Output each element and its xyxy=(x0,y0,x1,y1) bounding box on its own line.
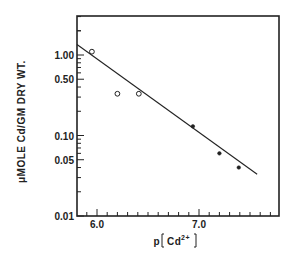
x-tick-label: 6.0 xyxy=(90,219,104,230)
filled-circle-marker xyxy=(237,166,241,170)
y-tick-label: 0.01 xyxy=(55,211,75,222)
filled-circle-marker xyxy=(218,152,222,156)
open-circle-marker xyxy=(115,91,120,96)
x-label-prefix: p xyxy=(153,236,160,247)
right-bracket-icon xyxy=(194,234,196,247)
open-circle-marker xyxy=(136,91,141,96)
filled-circle-marker xyxy=(191,125,195,129)
chart: 0.010.050.100.501.00 6.07.0 pCd2+ xyxy=(0,0,292,270)
y-tick-label: 0.50 xyxy=(55,74,75,85)
x-label-species: Cd xyxy=(167,236,181,247)
regression-line xyxy=(77,45,257,175)
data-points xyxy=(90,49,241,169)
plot-border xyxy=(77,16,279,216)
x-label-charge: 2+ xyxy=(181,234,190,241)
x-tick-label: 7.0 xyxy=(192,219,206,230)
y-tick-label: 1.00 xyxy=(55,50,75,61)
y-axis-label-text: μMOLE Cd/GM DRY WT. xyxy=(16,60,27,183)
x-axis-label: pCd2+ xyxy=(153,234,196,247)
open-circle-marker xyxy=(90,49,95,54)
y-tick-label: 0.05 xyxy=(55,155,75,166)
plot-frame xyxy=(77,16,279,216)
left-bracket-icon xyxy=(162,234,164,247)
fit-line-segment xyxy=(77,45,257,175)
y-axis-label: μMOLE Cd/GM DRY WT. xyxy=(12,35,30,185)
x-axis-ticks xyxy=(87,209,271,216)
y-axis-tick-labels: 0.010.050.100.501.00 xyxy=(55,50,75,222)
x-axis-tick-labels: 6.07.0 xyxy=(90,219,206,230)
y-tick-label: 0.10 xyxy=(55,131,75,142)
